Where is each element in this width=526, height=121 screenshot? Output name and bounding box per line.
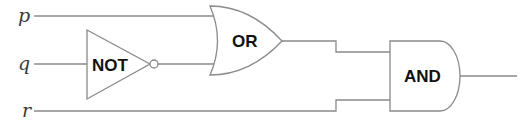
logic-circuit-diagram: p q r NOT OR AND — [0, 0, 526, 121]
input-label-p: p — [18, 4, 30, 26]
not-gate-bubble — [150, 60, 158, 68]
input-label-q: q — [18, 52, 30, 74]
and-gate-label: AND — [404, 67, 441, 86]
not-gate-label: NOT — [92, 56, 129, 75]
or-gate: OR — [210, 6, 282, 75]
input-label-r: r — [22, 99, 33, 121]
wire-r-to-and — [34, 100, 390, 111]
and-gate: AND — [390, 41, 460, 111]
not-gate: NOT — [87, 30, 158, 99]
or-gate-label: OR — [232, 32, 258, 51]
wire-or-to-and — [282, 41, 390, 52]
